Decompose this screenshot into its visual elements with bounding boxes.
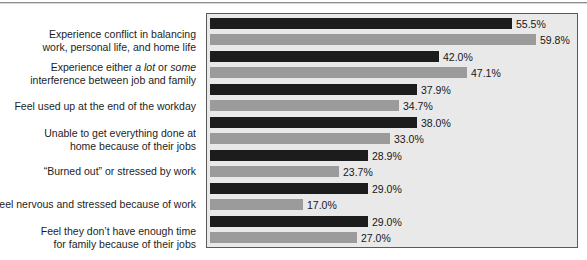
- bar-value-label-4-0: 28.9%: [372, 151, 402, 162]
- category-label-5-line-0: Feel nervous and stressed because of wor…: [0, 198, 196, 211]
- category-label-3-line-1: home because of their jobs: [44, 140, 196, 153]
- cat1-italic-some: some: [170, 61, 196, 73]
- bar-value-label-2-1: 34.7%: [403, 101, 433, 112]
- category-label-4: “Burned out” or stressed by work: [44, 165, 196, 178]
- bar-value-label-0-1: 59.8%: [540, 35, 570, 46]
- bar-series-2-3[interactable]: [210, 133, 390, 144]
- bar-value-label-2-0: 37.9%: [421, 85, 451, 96]
- bar-series-2-2[interactable]: [210, 100, 399, 111]
- bar-group: 29.0%27.0%: [207, 216, 577, 243]
- bar-group: 55.5%59.8%: [207, 18, 577, 45]
- plot-panel: 55.5%59.8%42.0%47.1%37.9%34.7%38.0%33.0%…: [206, 13, 578, 248]
- bar-value-label-1-0: 42.0%: [443, 52, 473, 63]
- category-label-6-line-1: for family because of their jobs: [41, 238, 196, 251]
- bar-value-label-6-0: 29.0%: [372, 217, 402, 228]
- chart-figure: Experience conflict in balancing work, p…: [0, 0, 587, 260]
- bar-group: 28.9%23.7%: [207, 150, 577, 177]
- bar-value-label-1-1: 47.1%: [471, 68, 501, 79]
- bar-series-2-5[interactable]: [210, 199, 303, 210]
- bar-group: 29.0%17.0%: [207, 183, 577, 210]
- category-label-1-line-0: Experience either a lot or some: [30, 61, 196, 74]
- category-label-0-line-0: Experience conflict in balancing: [43, 28, 197, 41]
- header-rule-shadow: [0, 3, 587, 4]
- cat1-mid: or: [155, 61, 170, 73]
- cat1-italic-a-lot: a lot: [135, 61, 155, 73]
- category-label-2-line-0: Feel used up at the end of the workday: [14, 100, 196, 113]
- category-label-5: Feel nervous and stressed because of wor…: [0, 198, 196, 211]
- bar-series-1-1[interactable]: [210, 51, 439, 62]
- bar-value-label-5-1: 17.0%: [307, 200, 337, 211]
- category-label-2: Feel used up at the end of the workday: [14, 100, 196, 113]
- bar-value-label-3-1: 33.0%: [394, 134, 424, 145]
- bar-series-2-6[interactable]: [210, 232, 357, 243]
- bars-layer: 55.5%59.8%42.0%47.1%37.9%34.7%38.0%33.0%…: [207, 14, 577, 247]
- category-label-3-line-0: Unable to get everything done at: [44, 127, 196, 140]
- bar-group: 37.9%34.7%: [207, 84, 577, 111]
- bar-series-1-0[interactable]: [210, 18, 512, 29]
- bar-group: 42.0%47.1%: [207, 51, 577, 78]
- category-label-6: Feel they don’t have enough time for fam…: [41, 225, 196, 250]
- category-label-1-line-1: interference between job and family: [30, 74, 196, 87]
- bar-series-1-4[interactable]: [210, 150, 368, 161]
- category-label-4-line-0: “Burned out” or stressed by work: [44, 165, 196, 178]
- category-label-0-line-1: work, personal life, and home life: [43, 41, 197, 54]
- bar-series-2-4[interactable]: [210, 166, 339, 177]
- bar-value-label-5-0: 29.0%: [372, 184, 402, 195]
- category-label-1: Experience either a lot or some interfer…: [30, 61, 196, 86]
- bar-series-2-0[interactable]: [210, 34, 536, 45]
- category-label-column: Experience conflict in balancing work, p…: [0, 13, 200, 248]
- cat1-pre: Experience either: [51, 61, 136, 73]
- bar-series-1-5[interactable]: [210, 183, 368, 194]
- bar-series-2-1[interactable]: [210, 67, 467, 78]
- bar-value-label-3-0: 38.0%: [421, 118, 451, 129]
- bar-series-1-2[interactable]: [210, 84, 417, 95]
- bar-value-label-4-1: 23.7%: [343, 167, 373, 178]
- category-label-0: Experience conflict in balancing work, p…: [43, 28, 197, 53]
- bar-series-1-6[interactable]: [210, 216, 368, 227]
- bar-value-label-0-0: 55.5%: [516, 19, 546, 30]
- bar-group: 38.0%33.0%: [207, 117, 577, 144]
- category-label-6-line-0: Feel they don’t have enough time: [41, 225, 196, 238]
- bar-value-label-6-1: 27.0%: [361, 233, 391, 244]
- category-label-3: Unable to get everything done at home be…: [44, 127, 196, 152]
- bar-series-1-3[interactable]: [210, 117, 417, 128]
